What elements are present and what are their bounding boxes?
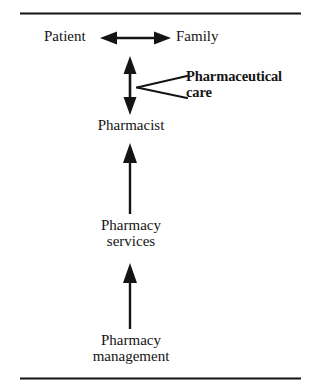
services-to-pharmacist-arrow xyxy=(123,143,137,214)
callout-label-line1: Pharmaceutical xyxy=(186,68,282,84)
callout-leader-upper xyxy=(137,76,187,88)
node-label-patient: Patient xyxy=(44,28,86,44)
node-label-family: Family xyxy=(176,28,219,44)
callout-label-line2: care xyxy=(186,85,282,101)
callout-label-pharmaceutical-care: Pharmaceutical care xyxy=(186,69,282,100)
pharmaceutical-care-diagram: Patient Family Pharmacist Pharmacy servi… xyxy=(0,0,327,392)
patient-family-arrow xyxy=(100,32,171,45)
node-label-pharmacy-management-line1: Pharmacy xyxy=(101,332,161,348)
node-label-pharmacy-services-line2: services xyxy=(101,233,161,249)
management-to-services-arrow xyxy=(123,263,137,329)
pharmacist-patient-family-arrow xyxy=(124,56,137,115)
node-label-pharmacy-management-line2: management xyxy=(93,348,170,364)
node-label-pharmacy-services-line1: Pharmacy xyxy=(101,217,161,233)
node-label-pharmacist: Pharmacist xyxy=(98,117,165,133)
node-label-pharmacy-services: Pharmacy services xyxy=(101,217,161,249)
node-label-pharmacy-management: Pharmacy management xyxy=(93,332,170,364)
callout-leader-lines xyxy=(137,76,187,98)
callout-leader-lower xyxy=(137,88,187,99)
